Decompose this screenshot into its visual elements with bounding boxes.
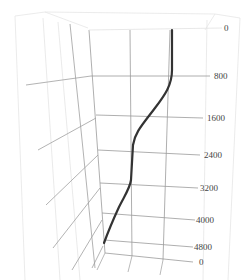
back-wall-top-edge <box>89 28 222 30</box>
outer-pane-edges <box>15 12 240 280</box>
tick-label-2400: 2400 <box>204 150 223 160</box>
z-axis-tick-labels: 0 800 1600 2400 3200 4000 4800 0 <box>194 23 229 267</box>
back-wall-vertical-grid <box>89 30 170 260</box>
left-wall-faint-grid <box>43 18 80 280</box>
tick-label-3200: 3200 <box>200 183 219 193</box>
tick-label-800: 800 <box>214 71 228 81</box>
tick-label-bottom-0: 0 <box>199 257 204 267</box>
trajectory-line <box>104 30 172 243</box>
tick-label-4000: 4000 <box>196 215 215 225</box>
floor-grid <box>97 253 163 275</box>
tick-label-0: 0 <box>224 23 229 33</box>
tick-label-1600: 1600 <box>207 113 226 123</box>
depth-gridlines <box>91 76 210 262</box>
3d-line-chart: 0 800 1600 2400 3200 4000 4800 0 <box>0 0 247 280</box>
tick-label-4800: 4800 <box>194 242 213 252</box>
